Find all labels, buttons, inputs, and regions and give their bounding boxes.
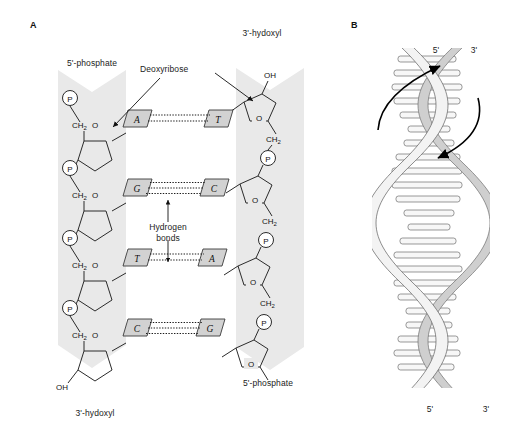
label-helix-top-5-prime: 5' [433,45,440,55]
label-3-hydroxyl-bottom: 3'-hydoxyl [75,408,114,418]
label-helix-top-3-prime: 3' [471,45,478,55]
backbone-ribbon-left [58,70,126,368]
phosphate-label: P [265,155,270,164]
panel-b-helix [354,0,524,437]
base-pair: T A [123,249,227,266]
base-letter: G [134,184,141,194]
base-letter: G [207,324,214,334]
ring-oxygen-label: O [250,278,256,287]
label-3-hydroxyl-top: 3'-hydoxyl [242,28,281,38]
phosphate-label: P [67,165,72,174]
label-helix-bottom-3-prime: 3' [483,404,490,414]
base-letter: A [208,254,215,264]
base-pair: G C [123,179,229,196]
ring-oxygen-label: O [248,360,254,369]
ring-oxygen-label: O [92,331,98,340]
label-5-prime-phosphate-bottom: 5'-phosphate [243,378,293,388]
ring-oxygen-label: O [92,121,98,130]
phosphate-label: P [261,319,266,328]
hydroxyl-label: OH [56,383,68,392]
phosphate-label: P [67,95,72,104]
base-letter: T [134,254,140,264]
label-helix-bottom-5-prime: 5' [427,404,434,414]
ring-oxygen-label: O [92,191,98,200]
ring-oxygen-label: O [252,196,258,205]
ring-oxygen-label: O [92,261,98,270]
label-hydrogen-bonds: Hydrogen bonds [149,222,187,244]
phosphate-label: P [67,235,72,244]
base-letter: T [215,115,221,125]
label-5-prime-phosphate-top: 5'-phosphate [67,58,117,68]
hydroxyl-label: OH [264,71,276,80]
ring-oxygen-label: O [256,114,262,123]
figure-canvas: A B P CH2 O P O CH2 O P CH [0,0,524,437]
base-pair: A T [123,110,233,127]
base-letter: C [211,184,218,194]
base-letter: A [133,115,140,125]
phosphate-label: P [263,237,268,246]
base-pair: C G [123,319,225,336]
phosphate-label: P [67,305,72,314]
base-letter: C [134,324,141,334]
label-deoxyribose: Deoxyribose [140,64,188,74]
